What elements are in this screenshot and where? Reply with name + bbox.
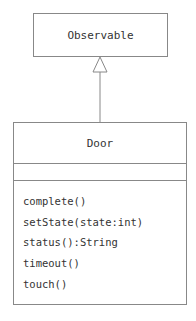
class-observable: Observable	[33, 13, 168, 57]
hollow-triangle-icon	[93, 57, 107, 72]
method: setState(state:int)	[23, 212, 186, 233]
method: complete()	[23, 191, 186, 212]
methods-compartment: complete() setState(state:int) status():…	[14, 181, 186, 294]
class-name-compartment: Door	[14, 123, 186, 164]
class-door: Door complete() setState(state:int) stat…	[13, 122, 187, 305]
class-name: Door	[87, 137, 114, 150]
class-name: Observable	[67, 29, 133, 42]
attributes-compartment	[14, 164, 186, 181]
method: touch()	[23, 274, 186, 295]
method: timeout()	[23, 253, 186, 274]
method: status():String	[23, 232, 186, 253]
